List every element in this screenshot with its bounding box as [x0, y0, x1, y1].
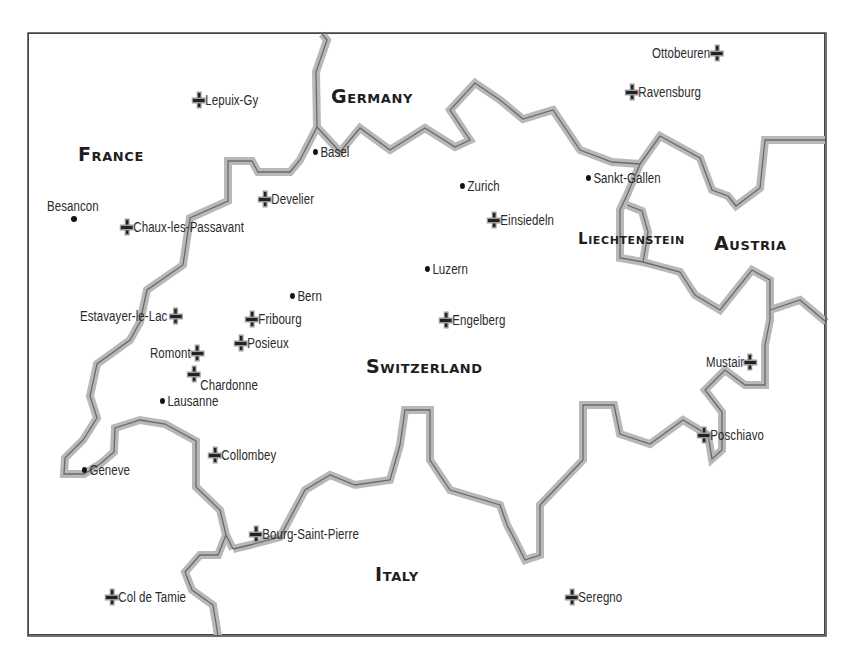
monastery-ravensburg: Ravensburg	[626, 84, 701, 100]
monastery-mustair: Mustair	[706, 354, 756, 370]
monastery-romont: Romont	[150, 345, 203, 361]
monastery-col-de-tamie: Col de Tamie	[106, 589, 186, 605]
country-label-france: France	[78, 143, 144, 165]
map-frame-outline	[28, 33, 826, 636]
cross-icon	[744, 355, 755, 369]
monastery-seregno: Seregno	[566, 589, 622, 605]
country-label-austria: Austria	[714, 232, 787, 254]
city-dot-icon	[425, 266, 430, 272]
cross-icon	[209, 448, 220, 462]
city-bern: Bern	[290, 288, 322, 304]
country-label-liechtenstein: Liechtenstein	[578, 230, 685, 248]
cross-icon	[106, 590, 117, 604]
city-dot-icon	[460, 183, 465, 189]
monastery-engelberg: Engelberg	[440, 312, 505, 328]
city-sankt-gallen: Sankt-Gallen	[586, 170, 661, 186]
cross-icon	[188, 367, 199, 381]
monastery-poschiavo: Poschiavo	[698, 427, 764, 443]
cross-icon	[259, 192, 270, 206]
monastery-fribourg: Fribourg	[246, 311, 302, 327]
cross-icon	[235, 336, 246, 350]
country-label-italy: Italy	[375, 563, 419, 585]
city-dot-icon	[313, 149, 318, 155]
city-dot-icon	[290, 293, 295, 299]
cross-icon	[170, 309, 181, 323]
cross-icon	[193, 93, 204, 107]
monastery-bourg-saint-pierre: Bourg-Saint-Pierre	[250, 526, 359, 542]
monastery-chaux-les-passavant: Chaux-les-Passavant	[121, 219, 244, 235]
country-label-switzerland: Switzerland	[366, 355, 483, 377]
monastery-ottobeuren: Ottobeuren	[652, 45, 723, 61]
monastery-lepuix-gy: Lepuix-Gy	[193, 92, 258, 108]
border-austria-italy	[770, 300, 826, 322]
city-dot-icon	[586, 175, 591, 181]
city-besancon-label: Besancon	[47, 198, 99, 214]
border-switzerland-austria-south	[643, 262, 770, 362]
city-basel: Basel	[313, 144, 350, 160]
city-luzern: Luzern	[425, 261, 468, 277]
monastery-posieux: Posieux	[235, 335, 289, 351]
monastery-develier: Develier	[259, 191, 314, 207]
cross-icon	[626, 85, 637, 99]
city-dot-icon	[160, 398, 165, 404]
city-zurich: Zurich	[460, 178, 500, 194]
cross-icon	[440, 313, 451, 327]
border-core-lines	[64, 34, 826, 636]
cross-icon	[246, 312, 257, 326]
cross-icon	[488, 213, 499, 227]
border-lines	[64, 34, 826, 636]
monastery-einsiedeln: Einsiedeln	[488, 212, 554, 228]
cross-icon	[566, 590, 577, 604]
cross-icon	[192, 346, 203, 360]
cross-icon	[121, 220, 132, 234]
city-dot-icon-besancon	[71, 216, 77, 222]
monastery-collombey: Collombey	[209, 447, 276, 463]
monastery-estavayer-le-lac: Estavayer-le-Lac	[80, 308, 181, 324]
city-lausanne: Lausanne	[160, 393, 218, 409]
monastery-chardonne: Chardonne	[188, 365, 258, 393]
cross-icon	[698, 428, 709, 442]
city-geneve: Geneve	[82, 462, 130, 478]
country-label-germany: Germany	[331, 85, 413, 107]
city-dot-icon	[82, 467, 87, 473]
cross-icon	[711, 46, 722, 60]
cross-icon	[250, 527, 261, 541]
country-borders	[0, 0, 855, 665]
